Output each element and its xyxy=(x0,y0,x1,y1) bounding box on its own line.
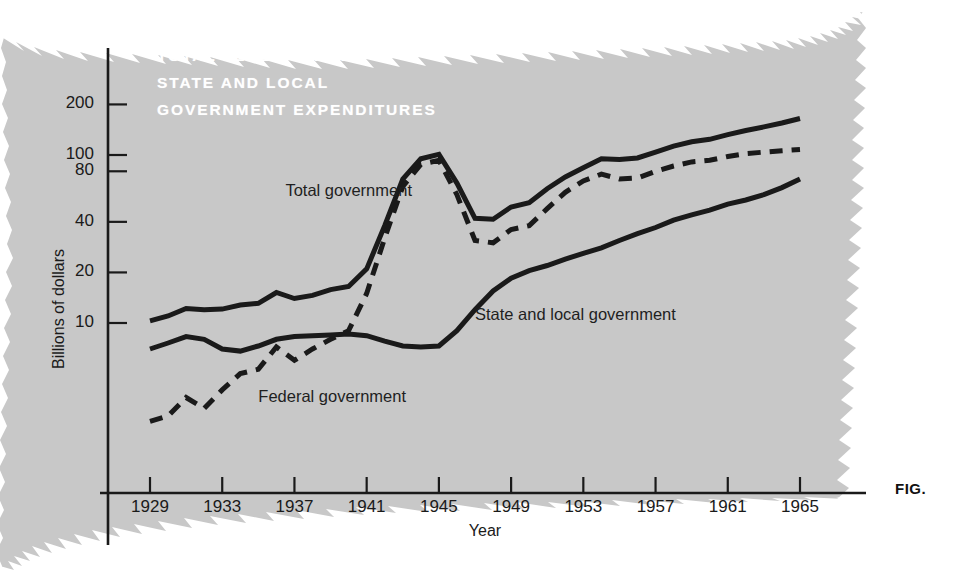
figure-caption-label: FIG. xyxy=(895,480,926,497)
x-axis-title: Year xyxy=(425,522,545,540)
y-axis-tick-label: 200 xyxy=(36,93,94,113)
x-axis-tick-label: 1961 xyxy=(693,497,763,517)
series-annotation-label: Total government xyxy=(285,181,412,200)
series-line xyxy=(150,119,800,321)
x-axis-tick-label: 1957 xyxy=(621,497,691,517)
x-axis-tick-label: 1941 xyxy=(332,497,402,517)
y-axis-tick-label: 20 xyxy=(36,261,94,281)
x-axis-tick-label: 1965 xyxy=(765,497,835,517)
series-line xyxy=(150,149,800,421)
x-axis-tick-label: 1937 xyxy=(259,497,329,517)
y-axis-tick-label: 80 xyxy=(36,160,94,180)
x-axis-tick-label: 1933 xyxy=(187,497,257,517)
series-annotation-label: Federal government xyxy=(258,387,406,406)
x-axis-tick-label: 1929 xyxy=(115,497,185,517)
x-axis-ticks xyxy=(150,477,800,493)
y-axis-title: Billions of dollars xyxy=(50,214,68,404)
chart-title: TOTAL FEDERAL AND STATE AND LOCAL GOVERN… xyxy=(157,42,437,123)
data-series-layer xyxy=(150,119,800,422)
y-axis-tick-label: 40 xyxy=(36,211,94,231)
series-annotation-label: State and local government xyxy=(475,305,676,324)
figure-root: TOTAL FEDERAL AND STATE AND LOCAL GOVERN… xyxy=(0,0,967,580)
x-axis-tick-label: 1945 xyxy=(404,497,474,517)
x-axis-tick-label: 1953 xyxy=(548,497,618,517)
chart-plot-area xyxy=(0,0,967,580)
series-line xyxy=(150,179,800,351)
x-axis-tick-label: 1949 xyxy=(476,497,546,517)
y-axis-tick-label: 10 xyxy=(36,312,94,332)
y-axis-ticks xyxy=(108,104,127,323)
